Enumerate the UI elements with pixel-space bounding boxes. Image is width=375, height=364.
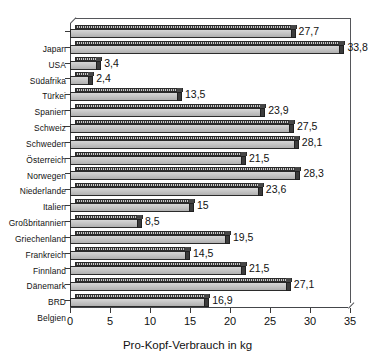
bar-end-cap xyxy=(294,140,299,149)
value-tick-label: 20 xyxy=(215,315,245,328)
bar-end-cap xyxy=(88,76,93,85)
bar xyxy=(70,25,297,38)
bar xyxy=(70,72,94,85)
bar-front-face xyxy=(70,298,205,307)
bar-value-label: 3,4 xyxy=(104,58,119,69)
bar xyxy=(70,199,195,212)
value-tick-label: 35 xyxy=(335,315,365,328)
bar xyxy=(70,278,292,291)
bar-front-face xyxy=(70,108,261,117)
bar-value-label: 28,3 xyxy=(303,168,323,179)
bar xyxy=(70,136,300,149)
bar xyxy=(70,57,102,70)
value-tick xyxy=(190,308,191,313)
bar-end-cap xyxy=(258,187,263,196)
bar-front-face xyxy=(70,45,340,54)
bar-chart: JapanUSASüdafrikaTürkeiSpanienSchweizSch… xyxy=(0,0,375,364)
bar-front-face xyxy=(70,124,290,133)
bar-value-label: 23,6 xyxy=(266,184,286,195)
bar-end-cap xyxy=(96,61,101,70)
bar-value-label: 8,5 xyxy=(145,216,160,227)
bar-end-cap xyxy=(289,124,294,133)
bar xyxy=(70,262,247,275)
bar-front-face xyxy=(70,266,242,275)
bar-end-cap xyxy=(339,45,344,54)
bar-front-face xyxy=(70,76,89,85)
bar xyxy=(70,120,295,133)
value-tick xyxy=(70,308,71,313)
bar-value-label: 28,1 xyxy=(302,137,322,148)
bar-front-face xyxy=(70,156,242,165)
bar-front-face xyxy=(70,140,295,149)
bar xyxy=(70,167,301,180)
bar-value-label: 33,8 xyxy=(347,42,367,53)
bar xyxy=(70,294,210,307)
bar-front-face xyxy=(70,171,296,180)
bar-end-cap xyxy=(260,108,265,117)
value-tick-label: 30 xyxy=(295,315,325,328)
bar-value-label: 15 xyxy=(197,200,209,211)
bar-front-face xyxy=(70,251,186,260)
bar-end-cap xyxy=(137,219,142,228)
bar-end-cap xyxy=(204,298,209,307)
bar-front-face xyxy=(70,187,259,196)
value-tick-label: 0 xyxy=(55,315,85,328)
value-tick xyxy=(310,308,311,313)
bar-value-label: 27,5 xyxy=(297,121,317,132)
bar-end-cap xyxy=(185,251,190,260)
value-tick xyxy=(150,308,151,313)
value-tick xyxy=(270,308,271,313)
bar-value-label: 13,5 xyxy=(185,89,205,100)
x-axis-title: Pro-Kopf-Verbrauch in kg xyxy=(0,338,375,352)
bar-end-cap xyxy=(291,29,296,38)
value-tick-label: 15 xyxy=(175,315,205,328)
bar xyxy=(70,152,247,165)
bar-front-face xyxy=(70,29,292,38)
bar-front-face xyxy=(70,203,190,212)
bar-value-label: 2,4 xyxy=(96,73,111,84)
value-tick xyxy=(350,308,351,313)
bars-layer: 27,733,83,42,413,523,927,528,121,528,323… xyxy=(0,0,375,364)
bar-front-face xyxy=(70,219,138,228)
bar-end-cap xyxy=(225,235,230,244)
bar-end-cap xyxy=(177,92,182,101)
bar-front-face xyxy=(70,92,178,101)
bar xyxy=(70,41,345,54)
bar xyxy=(70,247,191,260)
bar-end-cap xyxy=(286,282,291,291)
value-tick xyxy=(110,308,111,313)
bar-value-label: 21,5 xyxy=(249,263,269,274)
bar-value-label: 21,5 xyxy=(249,153,269,164)
bar-end-cap xyxy=(295,171,300,180)
bar-value-label: 23,9 xyxy=(268,105,288,116)
bar-front-face xyxy=(70,235,226,244)
bar-value-label: 14,5 xyxy=(193,248,213,259)
bar-value-label: 27,7 xyxy=(299,26,319,37)
bar xyxy=(70,231,231,244)
bar xyxy=(70,104,266,117)
bar-end-cap xyxy=(189,203,194,212)
bar xyxy=(70,88,183,101)
bar-end-cap xyxy=(241,156,246,165)
bar xyxy=(70,215,143,228)
bar xyxy=(70,183,264,196)
value-tick-label: 10 xyxy=(135,315,165,328)
bar-front-face xyxy=(70,61,97,70)
value-tick-label: 25 xyxy=(255,315,285,328)
value-tick-label: 5 xyxy=(95,315,125,328)
value-tick xyxy=(230,308,231,313)
bar-end-cap xyxy=(241,266,246,275)
bar-value-label: 16,9 xyxy=(212,295,232,306)
bar-value-label: 19,5 xyxy=(233,232,253,243)
bar-front-face xyxy=(70,282,287,291)
bar-value-label: 27,1 xyxy=(294,279,314,290)
